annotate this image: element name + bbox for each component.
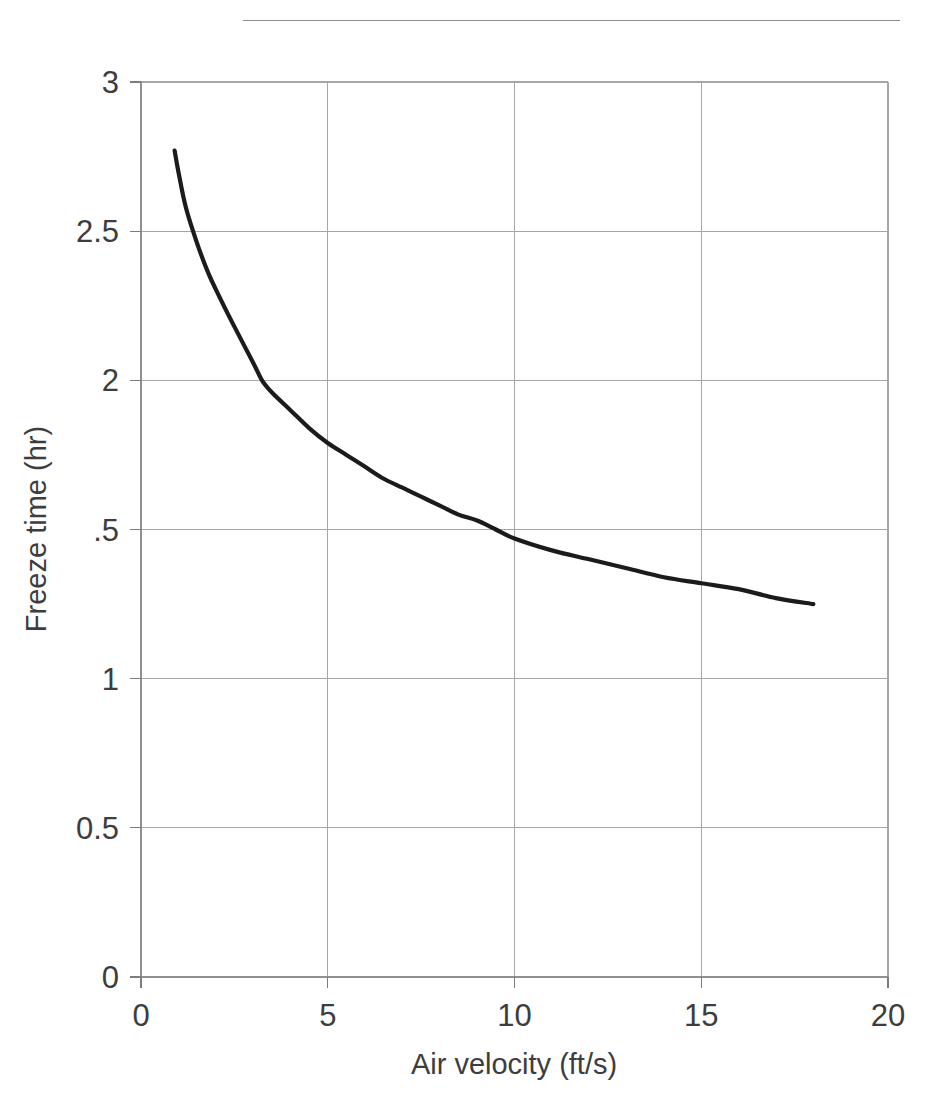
gridlines-group — [141, 82, 888, 977]
y-tick-label: 0 — [102, 960, 119, 995]
y-tick-labels-group: 00.51.522.53 — [76, 65, 119, 995]
y-tick-label: 1 — [102, 662, 119, 697]
chart-figure: 05101520 00.51.522.53 Air velocity (ft/s… — [0, 0, 940, 1108]
x-tick-label: 0 — [132, 998, 149, 1033]
data-series-line — [175, 151, 814, 604]
y-tick-label: 3 — [102, 65, 119, 100]
x-tick-label: 5 — [319, 998, 336, 1033]
x-axis-title: Air velocity (ft/s) — [411, 1048, 617, 1080]
x-tick-labels-group: 05101520 — [132, 998, 905, 1033]
y-axis-title: Freeze time (hr) — [20, 426, 52, 632]
y-tick-label: .5 — [93, 513, 119, 548]
y-tick-label: 0.5 — [76, 811, 119, 846]
x-tick-label: 10 — [497, 998, 531, 1033]
x-tick-label: 20 — [871, 998, 905, 1033]
x-tick-label: 15 — [684, 998, 718, 1033]
figure-page: 05101520 00.51.522.53 Air velocity (ft/s… — [0, 0, 940, 1108]
y-tick-label: 2 — [102, 363, 119, 398]
chart-canvas: 05101520 00.51.522.53 Air velocity (ft/s… — [0, 0, 940, 1108]
series-group — [175, 151, 814, 604]
y-tick-label: 2.5 — [76, 214, 119, 249]
